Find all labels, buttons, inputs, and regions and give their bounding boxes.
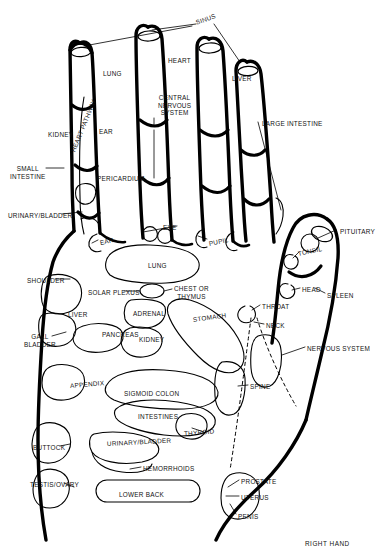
reflexology-hand-diagram	[0, 0, 376, 556]
chart-caption: RIGHT HAND	[305, 540, 350, 547]
